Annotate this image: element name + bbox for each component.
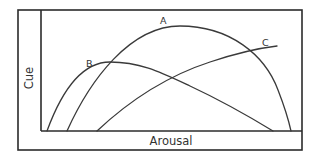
x-axis-label: Arousal bbox=[150, 134, 193, 148]
outer-frame bbox=[18, 10, 302, 150]
arousal-cue-diagram: B A C Arousal Cue bbox=[0, 0, 316, 158]
curve-c-label: C bbox=[262, 37, 269, 48]
curve-b-label: B bbox=[86, 58, 93, 69]
y-axis-label: Cue bbox=[22, 67, 36, 89]
curve-a bbox=[67, 26, 291, 131]
curve-b bbox=[47, 62, 273, 131]
curve-c bbox=[97, 46, 277, 131]
curve-a-label: A bbox=[160, 15, 167, 26]
